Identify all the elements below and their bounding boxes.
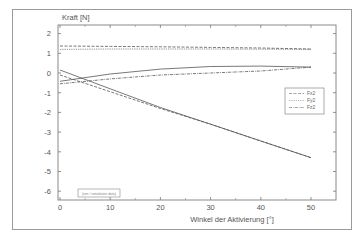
series-line-5	[60, 70, 311, 158]
y-tick-label: -3	[44, 128, 51, 137]
x-tick-label: 10	[106, 203, 114, 212]
ticks: 01020304050210-1-2-3-4-5-6	[44, 25, 336, 212]
legend-box	[285, 88, 324, 114]
x-tick-label: 50	[307, 203, 315, 212]
x-tick-label: 0	[58, 203, 62, 212]
annotation-box: (sim / simulation data)	[78, 189, 120, 197]
y-tick-label: -6	[44, 187, 51, 196]
series-line-0	[60, 46, 311, 49]
y-tick-label: 2	[47, 29, 51, 38]
legend-label: Fx2	[307, 90, 316, 96]
x-tick-label: 40	[257, 203, 265, 212]
x-tick-label: 20	[156, 203, 164, 212]
line-chart: 01020304050210-1-2-3-4-5-6 Kraft [N] Win…	[0, 0, 357, 239]
annotation-text: (sim / simulation data)	[82, 192, 116, 196]
y-tick-label: 1	[47, 49, 51, 58]
x-tick-label: 30	[206, 203, 214, 212]
y-tick-label: -5	[44, 167, 51, 176]
y-tick-label: -4	[44, 148, 51, 157]
legend: Fx2Fy2Fz2	[285, 88, 324, 114]
y-tick-label: -1	[44, 89, 51, 98]
y-axis-label: Kraft [N]	[62, 13, 90, 22]
x-axis-label: Winkel der Aktivierung [°]	[190, 215, 273, 224]
legend-label: Fy2	[307, 97, 316, 103]
y-tick-label: 0	[47, 69, 51, 78]
y-tick-label: -2	[44, 108, 51, 117]
legend-label: Fz2	[307, 104, 316, 110]
series-group	[60, 46, 311, 158]
